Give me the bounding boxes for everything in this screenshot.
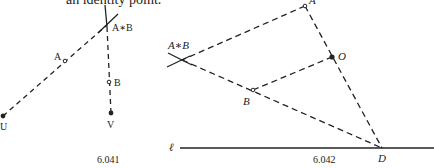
- label-u: U: [0, 122, 7, 132]
- point-o: [329, 54, 334, 59]
- caption-6042: 6.042: [313, 155, 336, 165]
- line-ab-to-d: [182, 60, 382, 148]
- label-b-left: B: [114, 78, 121, 88]
- point-v: [109, 111, 114, 116]
- ab-tick-vertical: [105, 5, 107, 27]
- ab-cross-2: [168, 53, 192, 65]
- label-ell: ℓ: [169, 142, 174, 153]
- label-d: D: [378, 153, 386, 164]
- point-a-right: [303, 4, 307, 8]
- label-a-left: A: [54, 52, 61, 62]
- caption-6041: 6.041: [97, 155, 120, 165]
- point-u: [1, 114, 6, 119]
- figures-canvas: [0, 0, 434, 168]
- point-b-right: [251, 88, 255, 92]
- label-a-right: A: [309, 0, 316, 6]
- line-b-to-o: [253, 57, 332, 90]
- label-v: V: [107, 120, 114, 130]
- label-o: O: [338, 51, 346, 62]
- diagram-page: an identity point.: [0, 0, 434, 168]
- label-ab-left: A∗B: [112, 23, 133, 33]
- label-ab-right: A∗B: [168, 40, 189, 51]
- point-b: [107, 80, 111, 84]
- line-ab-to-v: [107, 27, 111, 113]
- line-a-to-ab: [182, 6, 305, 60]
- line-u-to-ab: [3, 25, 107, 116]
- figure-6042: [167, 4, 434, 148]
- line-a-to-d: [305, 6, 382, 148]
- label-b-right: B: [243, 96, 250, 107]
- point-a: [63, 59, 67, 63]
